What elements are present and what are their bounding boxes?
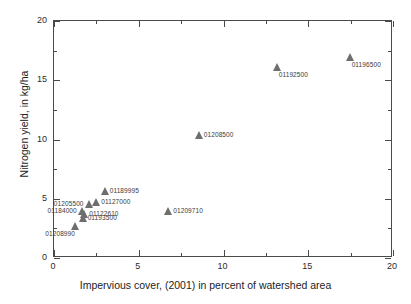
x-tick-major-top [308,21,309,27]
data-point-label: 01122610 [89,211,118,218]
x-tick-minor [96,253,97,256]
y-tick-major-right [385,258,391,259]
x-tick-minor [181,253,182,256]
triangle-marker-icon [273,63,281,71]
triangle-marker-icon [101,187,109,195]
y-tick-label: 0 [42,253,47,262]
x-tick-major-top [139,21,140,27]
data-point-label: 01196500 [352,62,381,69]
x-tick-label: 10 [217,262,227,271]
y-tick-major [54,80,60,81]
x-tick-minor [266,253,267,256]
x-tick-major [139,250,140,256]
y-tick-major-right [385,140,391,141]
y-tick-minor-right [388,51,391,52]
x-tick-label: 20 [387,262,397,271]
y-tick-minor [54,51,57,52]
x-tick-major-top [224,21,225,27]
x-tick-label: 0 [50,262,55,271]
x-tick-label: 15 [302,262,312,271]
triangle-marker-icon [92,198,100,206]
y-tick-minor-right [388,228,391,229]
y-tick-major-right [385,80,391,81]
data-point-label: 01127000 [101,199,130,206]
data-point-label: 01205500 [54,201,84,208]
y-tick-label: 5 [42,193,47,202]
y-tick-minor [54,110,57,111]
data-point-label: 01208500 [204,132,234,139]
y-tick-major [54,21,60,22]
y-tick-label: 15 [37,75,47,84]
x-tick-minor-top [266,21,267,24]
y-tick-major [54,258,60,259]
triangle-marker-icon [346,53,354,61]
x-tick-minor-top [181,21,182,24]
triangle-marker-icon [195,131,203,139]
x-tick-major-top [393,21,394,27]
x-tick-minor [351,253,352,256]
triangle-marker-icon [71,222,79,230]
x-tick-label: 5 [135,262,140,271]
triangle-marker-icon [164,207,172,215]
data-point-label: 01184000 [48,208,77,215]
y-tick-minor [54,169,57,170]
y-tick-major-right [385,199,391,200]
y-tick-label: 20 [37,16,47,25]
nitrogen-yield-scatter-figure: 0510152005101520 01208990011935000112261… [0,0,411,304]
x-tick-minor-top [351,21,352,24]
plot-area [53,20,392,257]
data-point-label: 01208990 [45,231,75,238]
y-tick-label: 10 [37,134,47,143]
y-tick-major-right [385,21,391,22]
x-tick-minor-top [96,21,97,24]
data-point-label: 01192500 [279,72,308,79]
data-point-label: 01189995 [110,188,139,195]
x-tick-major [308,250,309,256]
x-tick-major [54,250,55,256]
x-tick-major [393,250,394,256]
x-axis-title: Impervious cover, (2001) in percent of w… [0,279,411,291]
y-tick-minor-right [388,169,391,170]
y-axis-title: Nitrogen yield, in kg/ha [18,14,30,234]
y-tick-minor-right [388,110,391,111]
x-tick-major [224,250,225,256]
y-tick-major [54,140,60,141]
data-point-label: 01209710 [173,208,203,215]
